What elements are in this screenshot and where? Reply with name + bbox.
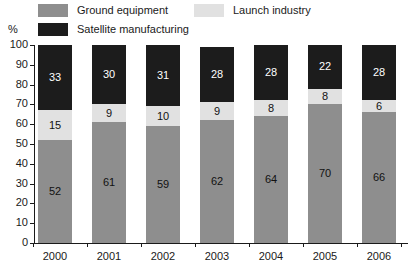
y-tick-mark [30, 65, 34, 66]
bar-segment-value: 8 [268, 103, 274, 114]
y-tick-mark [30, 45, 34, 46]
bar-segment-satellite-manufacturing-2005[interactable]: 22 [308, 45, 342, 89]
y-tick-mark [30, 184, 34, 185]
bar-segment-satellite-manufacturing-2002[interactable]: 31 [146, 45, 180, 106]
x-tick-mark [33, 243, 34, 247]
x-tick-mark [357, 243, 358, 247]
y-tick-mark [30, 85, 34, 86]
bar-segment-value: 70 [319, 168, 331, 179]
bar-segment-value: 10 [157, 111, 169, 122]
bar-segment-value: 28 [265, 67, 277, 78]
legend-label-satellite-manufacturing: Satellite manufacturing [77, 23, 189, 36]
bar-segment-ground-equipment-2001[interactable]: 61 [92, 122, 126, 243]
bar-segment-value: 59 [157, 179, 169, 190]
legend-item-launch-industry: Launch industry [194, 4, 311, 17]
legend-swatch-satellite-manufacturing [38, 23, 68, 36]
x-axis-label-2005: 2005 [300, 250, 350, 263]
x-axis-label-2001: 2001 [84, 250, 134, 263]
bar-segment-launch-industry-2004[interactable]: 8 [254, 100, 288, 116]
bar-segment-value: 66 [373, 172, 385, 183]
bar-segment-value: 61 [103, 177, 115, 188]
bar-segment-value: 31 [157, 70, 169, 81]
y-tick-label: 60 [16, 117, 28, 130]
bar-segment-value: 33 [49, 72, 61, 83]
bar-segment-satellite-manufacturing-2003[interactable]: 28 [200, 47, 234, 102]
bar-segment-ground-equipment-2002[interactable]: 59 [146, 126, 180, 243]
bar-segment-launch-industry-2006[interactable]: 6 [362, 100, 396, 112]
chart-legend: Ground equipment Launch industry Satelli… [0, 0, 417, 44]
x-axis-label-2003: 2003 [192, 250, 242, 263]
y-tick-mark [30, 164, 34, 165]
x-axis-label-2000: 2000 [30, 250, 80, 263]
bar-segment-value: 30 [103, 69, 115, 80]
bar-2006[interactable]: 28666 [362, 45, 396, 243]
legend-item-ground-equipment: Ground equipment [38, 4, 168, 17]
bar-segment-value: 64 [265, 174, 277, 185]
y-tick-mark [30, 144, 34, 145]
x-tick-mark [195, 243, 196, 247]
bar-segment-value: 8 [322, 91, 328, 102]
bar-2003[interactable]: 28962 [200, 47, 234, 243]
y-tick-label: 70 [16, 97, 28, 110]
bar-segment-value: 9 [214, 106, 220, 117]
x-axis-label-2004: 2004 [246, 250, 296, 263]
bar-segment-launch-industry-2002[interactable]: 10 [146, 106, 180, 126]
bar-segment-ground-equipment-2006[interactable]: 66 [362, 112, 396, 243]
bar-segment-launch-industry-2003[interactable]: 9 [200, 102, 234, 120]
bar-segment-launch-industry-2005[interactable]: 8 [308, 89, 342, 105]
bar-2002[interactable]: 311059 [146, 45, 180, 243]
bar-2000[interactable]: 331552 [38, 45, 72, 243]
y-tick-mark [30, 203, 34, 204]
y-tick-label: 10 [16, 216, 28, 229]
x-tick-mark [249, 243, 250, 247]
x-axis-label-2006: 2006 [354, 250, 404, 263]
y-tick-label: 90 [16, 58, 28, 71]
y-tick-label: 0 [22, 236, 28, 249]
bar-segment-satellite-manufacturing-2004[interactable]: 28 [254, 45, 288, 100]
x-tick-mark [141, 243, 142, 247]
x-tick-mark [87, 243, 88, 247]
legend-item-satellite-manufacturing: Satellite manufacturing [38, 23, 189, 36]
x-tick-mark [303, 243, 304, 247]
bar-segment-value: 9 [106, 108, 112, 119]
bar-segment-satellite-manufacturing-2006[interactable]: 28 [362, 45, 396, 100]
bar-segment-value: 15 [49, 120, 61, 131]
bar-segment-value: 22 [319, 61, 331, 72]
y-tick-label: 20 [16, 196, 28, 209]
bar-segment-ground-equipment-2003[interactable]: 62 [200, 120, 234, 243]
y-tick-label: 100 [10, 38, 28, 51]
bar-segment-value: 28 [373, 67, 385, 78]
bar-2001[interactable]: 30961 [92, 45, 126, 243]
y-tick-label: 40 [16, 157, 28, 170]
y-tick-label: 50 [16, 137, 28, 150]
bar-segment-value: 28 [211, 69, 223, 80]
y-tick-mark [30, 223, 34, 224]
bar-segment-launch-industry-2001[interactable]: 9 [92, 104, 126, 122]
bar-2005[interactable]: 22870 [308, 45, 342, 243]
y-tick-label: 80 [16, 78, 28, 91]
y-tick-mark [30, 104, 34, 105]
bar-segment-satellite-manufacturing-2001[interactable]: 30 [92, 45, 126, 104]
bar-segment-ground-equipment-2004[interactable]: 64 [254, 116, 288, 243]
bar-segment-value: 62 [211, 176, 223, 187]
bar-segment-value: 6 [376, 101, 382, 112]
y-tick-mark [30, 124, 34, 125]
y-axis-line [34, 45, 35, 244]
bar-segment-launch-industry-2000[interactable]: 15 [38, 110, 72, 140]
bar-segment-ground-equipment-2000[interactable]: 52 [38, 140, 72, 243]
bar-segment-ground-equipment-2005[interactable]: 70 [308, 104, 342, 243]
x-axis-line [34, 243, 408, 244]
bar-segment-value: 52 [49, 186, 61, 197]
x-tick-mark [401, 243, 402, 247]
y-tick-label: 30 [16, 177, 28, 190]
y-axis-unit-label: % [8, 23, 18, 36]
bar-segment-satellite-manufacturing-2000[interactable]: 33 [38, 45, 72, 110]
chart-plot-area: 1009080706050403020100 33155230961311059… [34, 45, 408, 243]
legend-swatch-ground-equipment [38, 4, 68, 17]
legend-label-launch-industry: Launch industry [233, 4, 311, 17]
bar-2004[interactable]: 28864 [254, 45, 288, 243]
legend-swatch-launch-industry [194, 4, 224, 17]
x-axis-label-2002: 2002 [138, 250, 188, 263]
legend-label-ground-equipment: Ground equipment [77, 4, 168, 17]
